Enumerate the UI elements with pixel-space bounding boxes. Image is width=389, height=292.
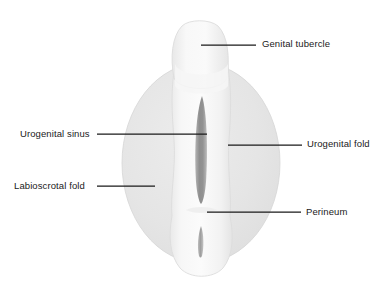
- label-perineum: Perineum: [306, 206, 347, 217]
- label-urogenital-fold: Urogenital fold: [307, 138, 370, 149]
- label-genital-tubercle: Genital tubercle: [262, 38, 330, 49]
- diagram-canvas: Genital tubercle Urogenital sinus Urogen…: [0, 0, 389, 292]
- label-labioscrotal-fold: Labioscrotal fold: [14, 180, 85, 191]
- label-urogenital-sinus: Urogenital sinus: [20, 128, 90, 139]
